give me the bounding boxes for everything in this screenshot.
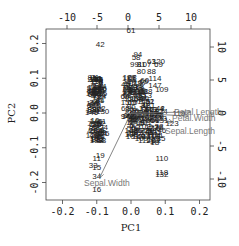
right-tick-label: 10 xyxy=(216,41,227,53)
y-axis-left: 0.20.10.0-0.1-0.2 xyxy=(29,34,46,194)
top-tick-label: 5 xyxy=(156,12,162,23)
point-label: 132 xyxy=(155,170,169,179)
y-axis-title: PC2 xyxy=(6,103,17,124)
svg-text:95: 95 xyxy=(92,120,101,129)
svg-text:64: 64 xyxy=(97,92,106,101)
x-axis-title: PC1 xyxy=(121,222,142,233)
y-tick-label: -0.2 xyxy=(29,170,40,194)
y-tick-label: -0.1 xyxy=(29,136,40,160)
svg-text:45: 45 xyxy=(121,80,130,89)
svg-text:100: 100 xyxy=(86,106,100,115)
point-label: 15 xyxy=(92,163,101,172)
variable-label: Sepal.Width xyxy=(84,178,130,188)
svg-text:60: 60 xyxy=(140,76,149,85)
variable-label: Sepal.Length xyxy=(165,126,215,136)
svg-text:58: 58 xyxy=(97,136,106,145)
y-tick-label: 0.1 xyxy=(29,69,40,87)
x-axis-bottom: -0.2-0.10.00.10.2 xyxy=(50,200,208,217)
svg-text:111: 111 xyxy=(138,136,151,145)
x-tick-label: 0.2 xyxy=(190,206,208,217)
svg-text:62: 62 xyxy=(129,121,138,130)
right-tick-label: 5 xyxy=(216,77,227,83)
point-label: 110 xyxy=(155,154,168,163)
top-tick-label: -5 xyxy=(91,12,103,23)
point-label: 109 xyxy=(155,85,169,94)
variable-label: Petal.Width xyxy=(172,113,216,123)
top-tick-label: 0 xyxy=(125,12,131,23)
biplot-chart: -0.2-0.10.00.10.2 0.20.10.0-0.1-0.2 -10-… xyxy=(0,0,239,246)
y-tick-label: 0.0 xyxy=(29,104,40,122)
point-label: 42 xyxy=(96,40,105,49)
x-tick-label: 0.0 xyxy=(122,206,140,217)
x-tick-label: -0.1 xyxy=(85,206,109,217)
top-tick-label: 10 xyxy=(185,12,197,23)
right-tick-label: -5 xyxy=(216,140,227,152)
top-tick-label: -10 xyxy=(58,12,76,23)
y-tick-label: 0.2 xyxy=(29,34,40,52)
right-tick-label: -10 xyxy=(216,170,227,188)
x-tick-label: 0.1 xyxy=(156,206,174,217)
svg-text:91: 91 xyxy=(90,73,99,82)
point-label: 61 xyxy=(127,26,136,35)
x-tick-label: -0.2 xyxy=(50,206,74,217)
